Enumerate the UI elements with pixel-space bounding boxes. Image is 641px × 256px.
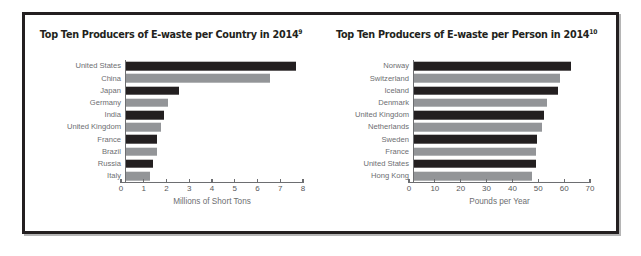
bar-row: France <box>325 145 590 157</box>
bar <box>126 159 153 168</box>
bar-track <box>413 133 590 145</box>
bar-category-label: Hong Kong <box>325 172 413 180</box>
bar-track <box>413 60 590 72</box>
bar <box>414 172 532 181</box>
bar-track <box>125 170 303 182</box>
bar-row: India <box>43 109 303 121</box>
bar-category-label: United States <box>325 160 413 168</box>
bar-track <box>125 158 303 170</box>
bar-category-label: United Kingdom <box>43 123 125 131</box>
bar-track <box>413 145 590 157</box>
bar-row: Brazil <box>43 145 303 157</box>
figure-container: Top Ten Producers of E-waste per Country… <box>0 0 641 256</box>
bar-row: Italy <box>43 170 303 182</box>
bar-rows-per-country: United StatesChinaJapanGermanyIndiaUnite… <box>43 60 303 182</box>
chart-title-per-person: Top Ten Producers of E-waste per Person … <box>329 28 604 40</box>
bar-category-label: Italy <box>43 172 125 180</box>
bar-category-label: China <box>43 75 125 83</box>
x-axis-label-per-country: Millions of Short Tons <box>121 197 303 206</box>
bar-row: Sweden <box>325 133 590 145</box>
x-axis-per-person: 010203040506070 Pounds per Year <box>325 182 590 216</box>
bar-category-label: Denmark <box>325 99 413 107</box>
bar-row: Japan <box>43 84 303 96</box>
bar-track <box>125 145 303 157</box>
bar <box>126 123 161 132</box>
bar-category-label: Netherlands <box>325 123 413 131</box>
bar <box>126 135 157 144</box>
bar <box>126 172 150 181</box>
chart-title-superscript: 9 <box>298 28 302 36</box>
bar-category-label: Norway <box>325 62 413 70</box>
bar-category-label: Iceland <box>325 87 413 95</box>
bar-track <box>125 109 303 121</box>
bar <box>414 74 560 83</box>
figure-frame: Top Ten Producers of E-waste per Country… <box>22 12 619 234</box>
chart-title-text: Top Ten Producers of E-waste per Person … <box>336 28 589 40</box>
plot-area-per-country: United StatesChinaJapanGermanyIndiaUnite… <box>43 60 303 190</box>
bar-row: Norway <box>325 60 590 72</box>
bar-category-label: United Kingdom <box>325 111 413 119</box>
bar-category-label: United States <box>43 62 125 70</box>
bar-row: Germany <box>43 97 303 109</box>
bar-row: Switzerland <box>325 72 590 84</box>
bar-row: Netherlands <box>325 121 590 133</box>
bar <box>414 111 544 120</box>
bar-category-label: Germany <box>43 99 125 107</box>
bar <box>414 98 547 107</box>
chart-panel-per-person: Top Ten Producers of E-waste per Person … <box>317 15 616 231</box>
bar <box>126 74 270 83</box>
bar-track <box>125 121 303 133</box>
bar <box>126 62 296 71</box>
chart-title-text: Top Ten Producers of E-waste per Country… <box>40 28 299 40</box>
bar-row: France <box>43 133 303 145</box>
bar-row: Russia <box>43 158 303 170</box>
bar-track <box>125 60 303 72</box>
bar-track <box>125 133 303 145</box>
bar <box>126 98 168 107</box>
bar <box>414 135 537 144</box>
bar-category-label: Russia <box>43 160 125 168</box>
bar-row: Denmark <box>325 97 590 109</box>
bar-track <box>413 84 590 96</box>
bar-row: Hong Kong <box>325 170 590 182</box>
bar-track <box>413 158 590 170</box>
bar-category-label: Brazil <box>43 148 125 156</box>
chart-title-per-country: Top Ten Producers of E-waste per Country… <box>37 28 306 40</box>
bar <box>414 147 536 156</box>
x-axis-per-country: 012345678 Millions of Short Tons <box>43 182 303 216</box>
bar <box>126 147 157 156</box>
bar-track <box>125 97 303 109</box>
bar-category-label: Switzerland <box>325 75 413 83</box>
bar-category-label: France <box>43 136 125 144</box>
bar-rows-per-person: NorwaySwitzerlandIcelandDenmarkUnited Ki… <box>325 60 590 182</box>
bar <box>414 123 542 132</box>
bar <box>126 111 164 120</box>
bar-row: China <box>43 72 303 84</box>
bar-track <box>413 97 590 109</box>
bar-track <box>413 121 590 133</box>
chart-title-superscript: 10 <box>589 28 597 36</box>
bar-category-label: Japan <box>43 87 125 95</box>
plot-area-per-person: NorwaySwitzerlandIcelandDenmarkUnited Ki… <box>325 60 590 190</box>
bar-row: United Kingdom <box>43 121 303 133</box>
bar-row: United States <box>325 158 590 170</box>
bar <box>126 86 179 95</box>
bar <box>414 62 571 71</box>
chart-panel-per-country: Top Ten Producers of E-waste per Country… <box>25 15 317 231</box>
bar-category-label: Sweden <box>325 136 413 144</box>
bar-category-label: France <box>325 148 413 156</box>
bar-track <box>413 109 590 121</box>
bar-category-label: India <box>43 111 125 119</box>
bar-track <box>125 72 303 84</box>
bar-track <box>125 84 303 96</box>
bar <box>414 86 558 95</box>
x-axis-label-per-person: Pounds per Year <box>409 197 590 206</box>
bar <box>414 159 536 168</box>
bar-track <box>413 72 590 84</box>
bar-row: Iceland <box>325 84 590 96</box>
bar-row: United Kingdom <box>325 109 590 121</box>
bar-row: United States <box>43 60 303 72</box>
